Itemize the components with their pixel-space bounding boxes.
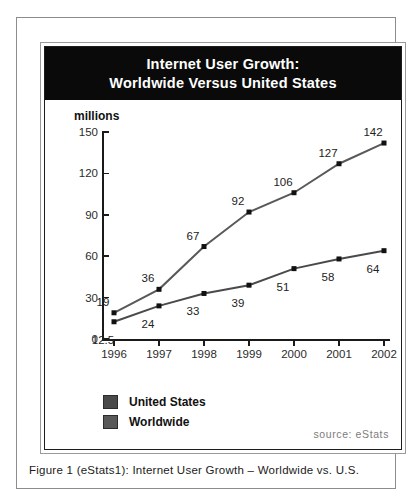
legend-item[interactable]: United States [103,395,206,409]
source-note: source: eStats [313,428,389,440]
data-point-marker [202,291,207,296]
data-point-marker [157,287,162,292]
legend-color-swatch [103,415,118,429]
data-point-label: 12.5 [92,334,114,346]
data-point-marker [247,283,252,288]
figure-caption: Figure 1 (eStats1): Internet User Growth… [29,464,359,476]
data-point-label: 142 [363,126,382,138]
y-axis-unit-label: millions [74,109,119,123]
data-point-marker [337,256,342,261]
data-point-label: 24 [142,318,155,330]
data-point-marker [112,319,117,324]
data-point-marker [382,248,387,253]
series-lines [78,132,390,357]
chart-title-line-1: Internet User Growth: [146,55,299,74]
data-point-marker [337,161,342,166]
chart-legend: United StatesWorldwide [103,395,206,435]
data-point-label: 51 [277,281,290,293]
chart-title-line-2: Worldwide Versus United States [109,74,336,93]
data-point-label: 36 [142,272,155,284]
data-point-marker [202,244,207,249]
plot-area: 0306090120150 19961997199819992000200120… [78,132,390,357]
chart-title-bar: Internet User Growth: Worldwide Versus U… [45,47,401,100]
chart-panel: Internet User Growth: Worldwide Versus U… [40,42,406,454]
data-point-marker [382,141,387,146]
legend-item-label: United States [129,395,206,409]
chart-inner-frame: Internet User Growth: Worldwide Versus U… [44,46,402,450]
data-point-label: 58 [322,271,335,283]
legend-color-swatch [103,395,118,409]
legend-item-label: Worldwide [129,415,189,429]
data-point-marker [292,190,297,195]
data-point-label: 127 [318,147,337,159]
data-point-label: 106 [273,176,292,188]
data-point-label: 19 [97,296,110,308]
data-point-label: 33 [187,305,200,317]
data-point-label: 64 [367,263,380,275]
figure-frame: Internet User Growth: Worldwide Versus U… [16,17,396,489]
data-point-marker [247,210,252,215]
data-point-marker [292,266,297,271]
data-point-marker [157,303,162,308]
data-point-marker [112,310,117,315]
data-point-label: 92 [232,195,245,207]
data-point-label: 67 [187,230,200,242]
legend-item[interactable]: Worldwide [103,415,206,429]
data-point-label: 39 [232,297,245,309]
